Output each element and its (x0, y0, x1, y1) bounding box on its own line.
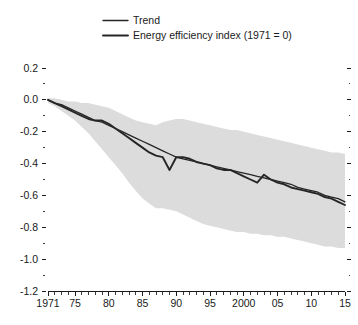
legend-label-energy-efficiency-index: Energy efficiency index (1971 = 0) (133, 29, 292, 41)
y-tick-label: 0.2 (23, 62, 38, 74)
y-tick-label: -1.0 (20, 253, 38, 265)
energy-efficiency-index-chart: Trend Energy efficiency index (1971 = 0)… (0, 0, 358, 325)
x-tick-label: 10 (305, 297, 317, 309)
x-tick-label: 90 (170, 297, 182, 309)
chart-container: Trend Energy efficiency index (1971 = 0)… (0, 0, 358, 325)
x-tick-label: 75 (69, 297, 81, 309)
x-tick-label: 80 (103, 297, 115, 309)
y-tick-label: -1.2 (20, 285, 38, 297)
y-tick-label: -0.2 (20, 125, 38, 137)
x-tick-label: 15 (339, 297, 351, 309)
y-tick-label: -0.8 (20, 221, 38, 233)
plot-area (48, 98, 345, 248)
legend-label-trend: Trend (133, 14, 160, 26)
x-axis: 197175808590952000051015 (36, 292, 351, 309)
x-tick-label: 85 (137, 297, 149, 309)
x-tick-label: 95 (204, 297, 216, 309)
y-tick-label: -0.4 (20, 157, 38, 169)
chart-legend: Trend Energy efficiency index (1971 = 0) (103, 14, 292, 41)
x-tick-label: 1971 (36, 297, 60, 309)
y-axis: 0.20.0-0.2-0.4-0.6-0.8-1.0-1.2 (20, 62, 46, 297)
x-tick-label: 05 (272, 297, 284, 309)
y-tick-label: -0.6 (20, 189, 38, 201)
x-tick-label: 2000 (232, 297, 256, 309)
y-axis-right (347, 68, 351, 291)
y-tick-label: 0.0 (23, 93, 38, 105)
